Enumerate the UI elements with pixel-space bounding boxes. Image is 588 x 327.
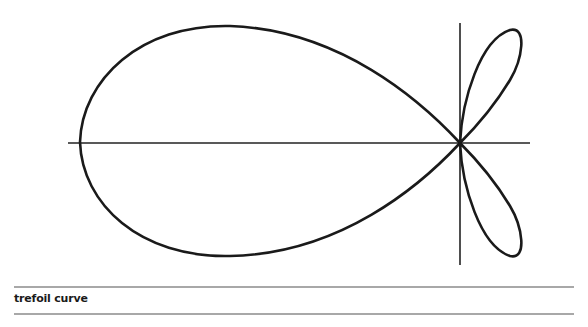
trefoil-diagram [0, 0, 588, 327]
caption-top-rule [14, 286, 574, 288]
upper-lobe-curve [460, 30, 521, 143]
lower-lobe-curve [460, 143, 521, 256]
main-loop-curve [80, 26, 460, 256]
caption-bottom-rule [14, 313, 574, 315]
figure-caption: trefoil curve [14, 292, 88, 305]
